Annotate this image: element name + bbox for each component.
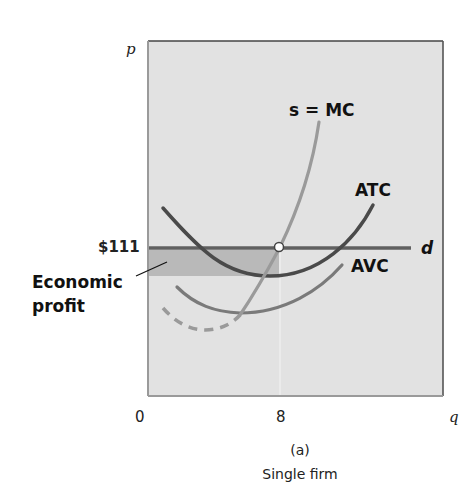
mc-label: s = MC (289, 102, 355, 119)
x-tick-origin: 0 (135, 410, 145, 425)
chart-caption: Single firm (220, 467, 380, 481)
plot-area (148, 41, 443, 396)
x-axis-label: q (449, 410, 459, 425)
equilibrium-point (275, 243, 284, 252)
y-axis-label: p (126, 42, 136, 57)
y-tick-price: $111 (98, 240, 140, 255)
economic-profit-area (149, 250, 279, 276)
avc-label: AVC (351, 258, 389, 275)
panel-label: (a) (220, 443, 380, 457)
economic-profit-label-line1: Economic (32, 274, 123, 291)
x-tick-8: 8 (276, 410, 286, 425)
economic-profit-label-line2: profit (32, 298, 85, 315)
chart-canvas (0, 0, 471, 502)
demand-label: d (421, 240, 433, 257)
atc-label: ATC (355, 182, 391, 199)
